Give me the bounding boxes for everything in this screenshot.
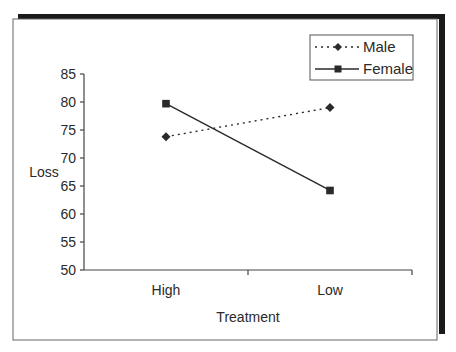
- y-tick-label: 85: [60, 66, 76, 82]
- chart: 5055606570758085 HighLow Loss Treatment …: [0, 0, 456, 352]
- y-tick-label: 65: [60, 178, 76, 194]
- y-axis-title: Loss: [29, 164, 59, 180]
- x-tick-label: High: [152, 282, 181, 298]
- y-tick-label: 70: [60, 150, 76, 166]
- y-tick-label: 80: [60, 94, 76, 110]
- square-marker-icon: [162, 100, 170, 108]
- y-tick-label: 60: [60, 206, 76, 222]
- x-axis-title: Treatment: [216, 309, 279, 325]
- legend-label-male: Male: [363, 38, 396, 55]
- frame-shadow-top: [18, 14, 445, 19]
- legend-label-female: Female: [363, 60, 413, 77]
- square-marker-icon: [335, 66, 342, 73]
- square-marker-icon: [326, 187, 334, 195]
- legend: Male Female: [310, 35, 413, 80]
- y-tick-label: 55: [60, 234, 76, 250]
- y-tick-label: 75: [60, 122, 76, 138]
- frame-shadow-right: [439, 14, 445, 334]
- y-tick-label: 50: [60, 262, 76, 278]
- x-tick-label: Low: [317, 282, 344, 298]
